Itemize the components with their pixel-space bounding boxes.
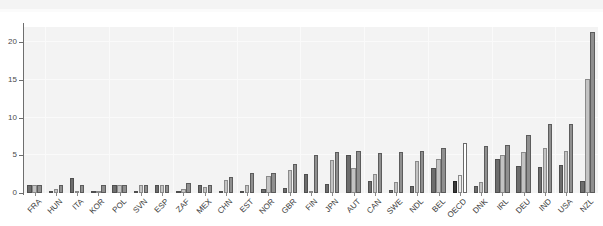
bar xyxy=(378,153,382,193)
y-axis-tick xyxy=(19,42,24,43)
bar xyxy=(117,185,121,193)
bar xyxy=(314,155,318,193)
bar xyxy=(500,155,504,193)
bar xyxy=(458,175,462,193)
bar xyxy=(559,165,563,193)
bar xyxy=(484,146,488,193)
bar xyxy=(521,152,525,193)
bar-group xyxy=(49,27,63,193)
bar xyxy=(346,155,350,193)
bar xyxy=(304,174,308,193)
bar xyxy=(250,173,254,193)
bar xyxy=(266,176,270,193)
bar xyxy=(80,185,84,193)
bar xyxy=(186,183,190,193)
y-axis-tick-label: 5 xyxy=(0,151,17,159)
bar-group xyxy=(431,27,445,193)
bar-group xyxy=(389,27,403,193)
bar xyxy=(165,185,169,193)
top-band xyxy=(0,0,603,9)
bar xyxy=(160,185,164,193)
bar xyxy=(548,124,552,193)
bar xyxy=(155,185,159,193)
bar xyxy=(139,185,143,193)
bar-group xyxy=(368,27,382,193)
bar xyxy=(441,148,445,193)
bar-group xyxy=(559,27,573,193)
bar xyxy=(330,160,334,193)
bar xyxy=(394,182,398,193)
bar-group xyxy=(453,27,467,193)
bar-group xyxy=(91,27,105,193)
bar-group xyxy=(155,27,169,193)
bar-group xyxy=(70,27,84,193)
bar xyxy=(271,173,275,193)
bar xyxy=(526,135,530,193)
bar xyxy=(27,185,31,193)
bar xyxy=(293,164,297,193)
y-axis-tick-label: 10 xyxy=(0,114,17,122)
y-axis-tick-label: 20 xyxy=(0,38,17,46)
chart-root: 05101520 FRAHUNITAKORPOLSVNESPZAFMEXCHNE… xyxy=(0,0,603,226)
bar-group xyxy=(304,27,318,193)
bar xyxy=(463,143,467,193)
bar-group xyxy=(176,27,190,193)
bar xyxy=(399,152,403,194)
bar xyxy=(453,181,457,193)
bar xyxy=(32,185,36,193)
plot-area xyxy=(24,27,598,193)
bar-group xyxy=(516,27,530,193)
bar xyxy=(585,79,589,193)
bar xyxy=(245,185,249,193)
bar xyxy=(543,148,547,193)
bar xyxy=(208,185,212,193)
bar-group xyxy=(134,27,148,193)
y-axis-tick xyxy=(19,118,24,119)
bar-group xyxy=(112,27,126,193)
bar-group xyxy=(27,27,41,193)
bar xyxy=(564,151,568,193)
bar-group xyxy=(538,27,552,193)
bar-group xyxy=(198,27,212,193)
bar-group xyxy=(325,27,339,193)
bar-group xyxy=(410,27,424,193)
bar xyxy=(538,167,542,193)
bar-group xyxy=(346,27,360,193)
x-axis-labels: FRAHUNITAKORPOLSVNESPZAFMEXCHNESTNORGBRF… xyxy=(0,193,603,226)
bar xyxy=(436,159,440,193)
bar-group xyxy=(240,27,254,193)
bar xyxy=(325,184,329,193)
bar xyxy=(410,186,414,193)
bar xyxy=(112,185,116,193)
bar-group xyxy=(580,27,594,193)
bar-group xyxy=(283,27,297,193)
bar xyxy=(122,185,126,193)
bar xyxy=(580,181,584,193)
bar xyxy=(356,151,360,193)
bar xyxy=(474,186,478,193)
bars-layer xyxy=(24,27,598,193)
bar-group xyxy=(261,27,275,193)
bar xyxy=(335,152,339,194)
y-axis-line xyxy=(23,23,24,195)
bar xyxy=(569,124,573,193)
bar xyxy=(288,170,292,193)
bar xyxy=(479,182,483,193)
bar xyxy=(101,185,105,193)
bar xyxy=(368,181,372,193)
bar xyxy=(516,166,520,193)
bar xyxy=(505,145,509,193)
bar xyxy=(198,185,202,193)
bar xyxy=(70,178,74,193)
bar xyxy=(420,151,424,193)
bar xyxy=(351,168,355,193)
y-axis-tick-label: 15 xyxy=(0,76,17,84)
bar-group xyxy=(474,27,488,193)
y-axis-tick xyxy=(19,155,24,156)
bar-group xyxy=(495,27,509,193)
bar xyxy=(37,185,41,193)
bar xyxy=(373,174,377,193)
bar xyxy=(229,177,233,193)
bar xyxy=(224,180,228,193)
bar xyxy=(431,168,435,193)
